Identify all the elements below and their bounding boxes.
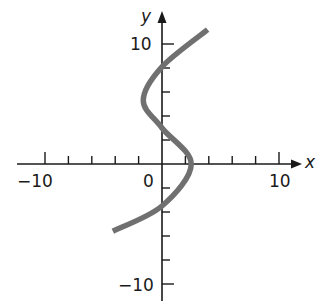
chart: y x 10 −10 −10 0 10 bbox=[0, 0, 317, 301]
y-tick-label-neg10: −10 bbox=[118, 275, 154, 295]
x-tick-label-neg10: −10 bbox=[17, 171, 53, 191]
curve-series bbox=[113, 30, 208, 232]
x-tick-label-10: 10 bbox=[269, 171, 291, 191]
y-tick-label-10: 10 bbox=[130, 34, 152, 54]
x-axis-arrow-icon bbox=[291, 160, 302, 169]
y-axis-label: y bbox=[140, 6, 152, 26]
x-tick-label-0: 0 bbox=[143, 171, 154, 191]
y-axis-arrow-icon bbox=[158, 11, 167, 23]
x-axis-label: x bbox=[304, 152, 316, 172]
x-axis bbox=[17, 152, 302, 169]
